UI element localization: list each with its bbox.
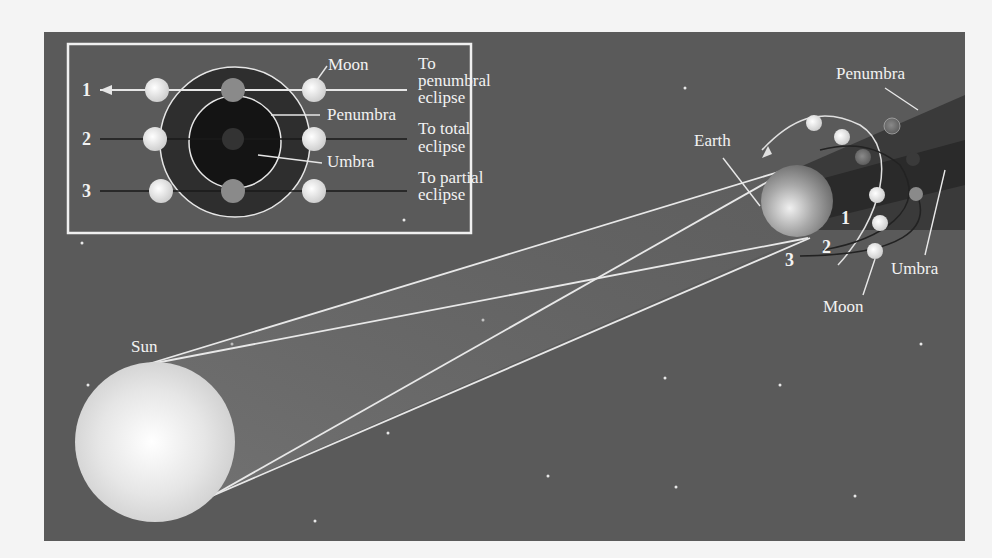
path-number-2: 2 — [822, 237, 831, 257]
penumbra-label: Penumbra — [836, 64, 905, 83]
lunar-eclipse-diagram: Sun Earth 1 2 3 Penumbra Umbra Moon — [0, 0, 992, 558]
sun — [75, 362, 235, 522]
earth-label: Earth — [694, 131, 731, 150]
inset-row-number-2: 2 — [82, 129, 91, 149]
inset-moon-label: Moon — [328, 55, 369, 74]
path-number-3: 3 — [785, 250, 794, 270]
inset-row-number-1: 1 — [82, 80, 91, 100]
inset-umbra-label: Umbra — [327, 152, 375, 171]
sun-label: Sun — [131, 337, 158, 356]
path-number-1: 1 — [841, 208, 850, 228]
umbra-label: Umbra — [891, 259, 939, 278]
inset-penumbra-label: Penumbra — [327, 105, 396, 124]
inset-row2-text: To total — [418, 119, 470, 138]
inset-row2-text-2: eclipse — [418, 137, 465, 156]
inset-row-number-3: 3 — [82, 181, 91, 201]
inset-row1-text-3: eclipse — [418, 88, 465, 107]
earth — [761, 165, 833, 237]
inset-row3-text-2: eclipse — [418, 185, 465, 204]
moon-label: Moon — [823, 297, 864, 316]
